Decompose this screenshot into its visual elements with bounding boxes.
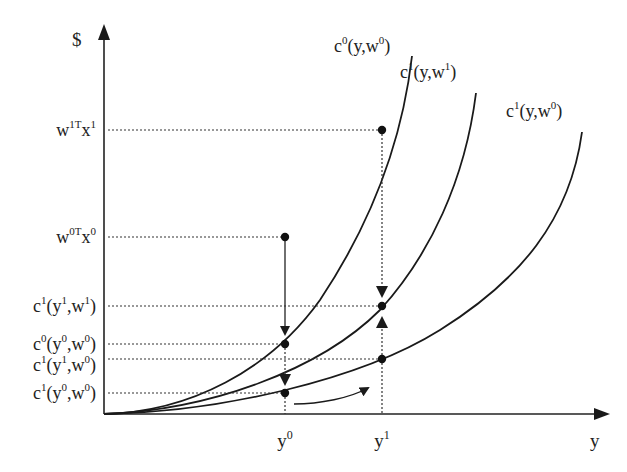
x-tick-y0: y0 [277,428,293,451]
x-tick-y1: y1 [374,428,390,451]
y-labels: w1Tx1w0Tx0c1(y1,w1)c0(y0,w0)c1(y1,w0)c1(… [33,118,97,404]
arrowhead-up-y1-icon [376,316,388,328]
x-axis-label: y [590,430,600,451]
point-c0y0w0 [281,340,289,348]
curve-label-c0_y_w0: c0(y,w0) [334,34,390,57]
point-c1y1w0 [378,355,386,363]
y-label-c1y1w1: c1(y1,w1) [33,294,96,317]
point-c1y1w1 [378,302,386,310]
points [281,126,386,397]
curve-label-c1_y_w0: c1(y,w0) [506,99,562,122]
horizontal-guides [108,130,382,393]
y-label-c1y0w0: c1(y0,w0) [33,381,96,404]
y-axis-arrowhead-icon [98,24,110,40]
x-tick-labels: y0y1 [277,428,390,451]
arrowhead-down-y1-icon [376,286,388,298]
y-label-c1y1w0: c1(y1,w0) [33,353,96,376]
curve-c1-y-w1 [104,93,476,414]
curve-c1-y-w0 [104,132,582,414]
point-w1Tx1 [378,126,386,134]
curved-shift-arrow-icon [294,388,368,404]
x-axis-arrowhead-icon [594,408,610,420]
point-w0Tx0 [281,233,289,241]
cost-diagram: $ y w1Tx1w [0,0,627,472]
curve-c0-y-w0 [104,56,412,414]
y1-vertical [376,130,388,414]
y0-vertical [279,237,291,414]
y-label-c0y0w0: c0(y0,w0) [33,332,96,355]
y-label-w0Tx0: w0Tx0 [56,225,96,247]
curve-labels: c0(y,w0)c1(y,w1)c1(y,w0) [334,34,562,122]
arrowhead-down-y0-icon [279,374,291,386]
point-c1y0w0 [281,389,289,397]
y-label-w1Tx1: w1Tx1 [56,118,96,140]
y-axis-label: $ [72,29,82,50]
